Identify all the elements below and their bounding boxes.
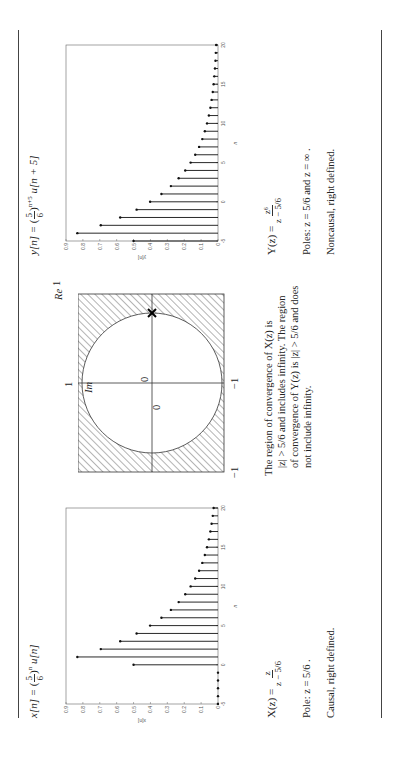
x-causality-note: Causal, right defined.	[324, 628, 337, 718]
svg-text:0.6: 0.6	[114, 706, 120, 713]
svg-text:0.2: 0.2	[181, 706, 187, 713]
svg-text:0.6: 0.6	[114, 243, 120, 250]
svg-text:0: 0	[220, 663, 226, 666]
x-signal-title: x[n] = (56)n u[n]	[24, 644, 45, 718]
bottom-rule	[381, 30, 382, 718]
svg-text:0.2: 0.2	[181, 243, 187, 250]
svg-text:15: 15	[220, 81, 226, 87]
svg-text:5: 5	[220, 624, 226, 627]
svg-text:20: 20	[220, 505, 226, 511]
svg-text:0.1: 0.1	[198, 706, 204, 713]
zero-label-a: 0	[150, 405, 163, 410]
svg-text:x[n]: x[n]	[137, 718, 146, 724]
tick-one-top: 1	[62, 382, 75, 387]
zero-label-b: 0	[138, 377, 151, 382]
svg-text:15: 15	[220, 544, 226, 550]
svg-text:0.1: 0.1	[198, 243, 204, 250]
roc-diagram	[78, 290, 238, 476]
svg-text:n: n	[232, 141, 238, 144]
im-axis-label: Im	[82, 382, 95, 393]
svg-text:0.9: 0.9	[63, 706, 69, 713]
svg-text:y[n]: y[n]	[137, 255, 146, 261]
svg-text:5: 5	[220, 161, 226, 164]
svg-text:0: 0	[215, 706, 221, 709]
svg-text:0: 0	[220, 200, 226, 203]
y-stem-plot: -50510152000.10.20.30.40.50.60.70.80.9ny…	[62, 39, 240, 261]
svg-text:0: 0	[215, 243, 221, 246]
svg-text:0.8: 0.8	[80, 243, 86, 250]
svg-text:0.7: 0.7	[97, 706, 103, 713]
re-axis-label: Re	[52, 289, 65, 300]
x-transform: X(z) = zz − 5/6	[262, 661, 283, 718]
svg-text:10: 10	[220, 120, 226, 126]
svg-text:0.3: 0.3	[164, 243, 170, 250]
y-transform: Y(z) = z⁶z − 5/6	[262, 198, 283, 255]
tick-minus-one-left: −1	[228, 467, 241, 478]
svg-text:n: n	[232, 604, 238, 607]
svg-text:0.9: 0.9	[63, 243, 69, 250]
tick-one-right: 1	[50, 281, 63, 286]
tick-minus-one-bottom: −1	[228, 378, 241, 389]
x-pole: Pole: z = 5/6 .	[300, 659, 313, 718]
svg-text:20: 20	[220, 42, 226, 48]
top-rule	[18, 30, 19, 718]
svg-text:0.8: 0.8	[80, 706, 86, 713]
svg-text:0.4: 0.4	[147, 706, 153, 713]
svg-text:10: 10	[220, 583, 226, 589]
svg-text:0.5: 0.5	[131, 706, 137, 713]
y-causality-note: Noncausal, right defined.	[324, 149, 337, 255]
x-stem-plot: -50510152000.10.20.30.40.50.60.70.80.9nx…	[62, 502, 240, 724]
y-poles: Poles: z = 5/6 and z = ∞ .	[300, 148, 313, 255]
svg-text:0.5: 0.5	[131, 243, 137, 250]
rotated-page: x[n] = (56)n u[n] -50510152000.10.20.30.…	[0, 0, 399, 776]
svg-text:0.7: 0.7	[97, 243, 103, 250]
svg-text:0.4: 0.4	[147, 243, 153, 250]
roc-caption: The region of convergence of X(z) is |z|…	[262, 266, 314, 476]
svg-text:0.3: 0.3	[164, 706, 170, 713]
y-signal-title: y[n] = (56)n+5 u[n + 5]	[24, 156, 45, 255]
